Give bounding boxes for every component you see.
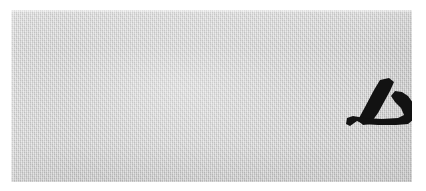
paper-shading-overlay bbox=[11, 10, 412, 182]
paper-edge-highlight bbox=[11, 10, 412, 182]
paper-swatch bbox=[11, 10, 412, 182]
descending-left-stroke bbox=[358, 78, 394, 125]
ink-stroke-group bbox=[346, 78, 412, 126]
image-description: Scanned swatch of light gray paper with … bbox=[0, 0, 1, 1]
scanned-image: 厶 Scanned swatch of light gray paper wit… bbox=[0, 0, 426, 191]
paper-texture-overlay bbox=[11, 10, 412, 182]
handwritten-character-glyph bbox=[11, 10, 412, 182]
lower-horizontal-hook-stroke bbox=[346, 91, 412, 126]
glyph-transcription: 厶 bbox=[0, 0, 1, 1]
